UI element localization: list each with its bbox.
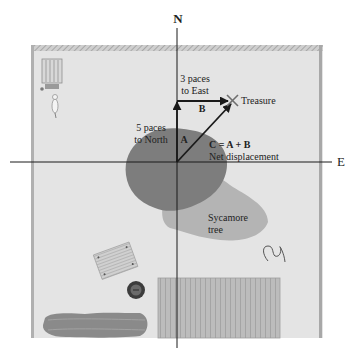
vector-c-formula: C = A + B [209, 139, 251, 150]
north-label: N [173, 11, 183, 26]
grill-icon [127, 281, 145, 299]
fence-left [31, 45, 34, 338]
vector-b-symbol: B [199, 103, 206, 114]
tree-label-line1: Sycamore [208, 212, 249, 223]
vector-a-caption-line2: to North [134, 134, 168, 145]
vector-a-symbol: A [180, 134, 188, 145]
vector-a-caption-line1: 5 paces [136, 122, 166, 133]
vector-b-caption-line2: to East [181, 85, 209, 96]
deck [158, 278, 280, 338]
vector-c-caption: Net displacement [209, 151, 279, 162]
treasure-label: Treasure [241, 95, 276, 106]
tree-label-line2: tree [208, 224, 224, 235]
vector-b-caption-line1: 3 paces [180, 73, 210, 84]
fence-right [319, 45, 322, 338]
treasure-map-diagram: N E 3 paces to East B 5 paces to North A… [0, 0, 363, 363]
hedge [43, 313, 148, 338]
east-label: E [337, 154, 345, 169]
